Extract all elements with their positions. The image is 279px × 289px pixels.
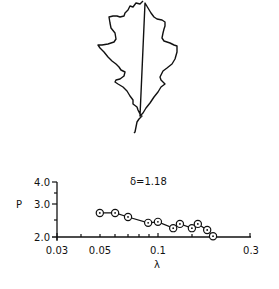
data-point-dot [99, 212, 101, 214]
delta-annotation: δ=1.18 [130, 176, 167, 187]
data-point-dot [114, 212, 116, 214]
figure: 4.0 3.0 2.0 P 0.03 0.05 0.1 0.3 λ δ=1.18 [0, 0, 279, 289]
x-tick-label: 0.1 [150, 245, 166, 256]
y-tick-label: 3.0 [34, 199, 50, 210]
y-axis-label: P [16, 199, 22, 210]
data-point-dot [172, 227, 174, 229]
data-point-dot [212, 235, 214, 237]
data-point-dot [127, 216, 129, 218]
x-axis-label: λ [154, 259, 160, 270]
data-point-dot [147, 222, 149, 224]
data-point-dot [157, 221, 159, 223]
y-tick-label: 4.0 [34, 177, 50, 188]
y-tick-label: 2.0 [34, 232, 50, 243]
data-series [96, 209, 216, 239]
data-point-dot [191, 227, 193, 229]
x-tick-label: 0.03 [46, 245, 68, 256]
x-tick-label: 0.3 [243, 245, 259, 256]
leaf-outline [98, 1, 177, 133]
y-ticks [52, 182, 57, 220]
x-tick-label: 0.05 [89, 245, 111, 256]
data-point-dot [197, 223, 199, 225]
data-point-dot [179, 223, 181, 225]
data-point-dot [206, 229, 208, 231]
